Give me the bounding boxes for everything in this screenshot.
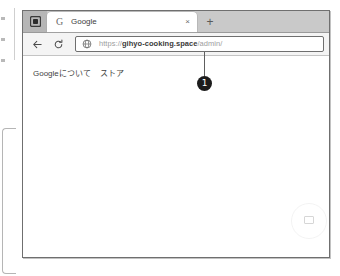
link-about-google[interactable]: Googleについて [33,69,91,78]
callout-badge-1: 1 [197,76,212,91]
globe-icon [82,39,92,49]
scan-artifact-rule [14,8,15,60]
browser-window: G Google × + h [22,10,330,258]
address-bar-url: https://gihyo-cooking.space/admin/ [99,40,222,48]
google-favicon: G [54,17,65,28]
callout-leader-line [204,52,205,76]
page-footer-links: Googleについてストア [33,70,124,78]
browser-toolbar: https://gihyo-cooking.space/admin/ [23,33,329,56]
url-scheme: https:// [99,39,122,48]
address-bar[interactable]: https://gihyo-cooking.space/admin/ [75,36,324,52]
scan-artifact-dash [1,17,5,20]
reload-icon[interactable] [50,36,67,53]
close-icon[interactable]: × [182,17,193,28]
url-host: gihyo-cooking.space [122,39,198,48]
scan-artifact-dash [1,38,5,41]
tab-google[interactable]: G Google × [47,12,197,32]
tab-overview-icon[interactable] [23,11,47,32]
url-path: /admin/ [197,39,222,48]
tab-title: Google [71,18,182,26]
new-tab-button[interactable]: + [200,12,220,32]
scan-artifact-box [2,128,16,274]
page-watermark [291,203,327,239]
page-viewport: Googleについてストア [23,56,329,257]
back-arrow-icon[interactable] [29,36,46,53]
tab-strip: G Google × + [23,11,329,33]
scan-artifact-dash [1,59,5,62]
link-store[interactable]: ストア [100,69,124,78]
